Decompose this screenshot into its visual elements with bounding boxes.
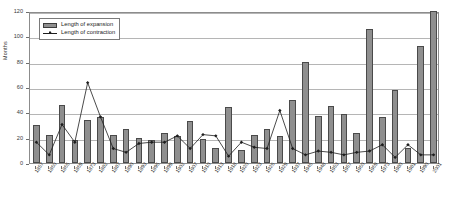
data-point-marker xyxy=(342,153,345,156)
data-point-marker xyxy=(432,153,435,156)
chart-legend: Length of expansion Length of contractio… xyxy=(39,18,120,40)
y-tick-label: 20 xyxy=(0,136,23,142)
contraction-line xyxy=(36,83,433,158)
y-tick-label: 40 xyxy=(0,110,23,116)
data-point-marker xyxy=(253,146,256,149)
y-tick-label: 100 xyxy=(0,34,23,40)
y-tick-label: 80 xyxy=(0,60,23,66)
data-point-marker xyxy=(112,147,115,150)
y-tick-mark xyxy=(26,164,29,165)
data-point-marker xyxy=(304,153,307,156)
data-point-marker xyxy=(86,81,89,84)
business-cycle-chart: Months 020406080100120 18571860186518691… xyxy=(0,0,450,212)
legend-item-expansion: Length of expansion xyxy=(43,21,115,29)
data-point-marker xyxy=(265,147,268,150)
data-point-marker xyxy=(291,147,294,150)
y-tick-label: 60 xyxy=(0,85,23,91)
legend-label-expansion: Length of expansion xyxy=(61,22,113,28)
data-point-marker xyxy=(317,149,320,152)
data-point-marker xyxy=(163,141,166,144)
data-point-marker xyxy=(329,151,332,154)
legend-label-contraction: Length of contraction xyxy=(61,30,115,36)
data-point-marker xyxy=(278,109,281,112)
bar-swatch-icon xyxy=(43,23,57,28)
data-point-marker xyxy=(368,149,371,152)
data-point-marker xyxy=(99,115,102,118)
y-tick-label: 120 xyxy=(0,9,23,15)
y-axis-title: Months xyxy=(2,50,8,60)
legend-item-contraction: Length of contraction xyxy=(43,29,115,37)
line-marker-icon xyxy=(43,31,57,36)
data-point-marker xyxy=(355,151,358,154)
data-point-marker xyxy=(150,141,153,144)
x-axis-tick-labels: 1857186018651869187318821887189018931895… xyxy=(29,166,439,210)
y-tick-label: 0 xyxy=(0,161,23,167)
